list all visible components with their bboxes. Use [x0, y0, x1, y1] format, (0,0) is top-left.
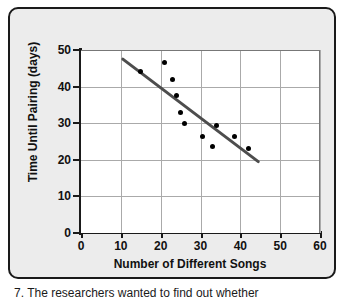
- x-tick-mark: [161, 233, 163, 238]
- x-tick-label: 40: [225, 240, 255, 252]
- data-point: [200, 134, 205, 139]
- x-axis-title: Number of Different Songs: [50, 257, 330, 271]
- data-point: [232, 134, 237, 139]
- y-tick-mark: [73, 195, 79, 197]
- y-tick-mark: [73, 122, 79, 124]
- y-tick-label: 30: [45, 117, 71, 129]
- y-tick-mark: [73, 232, 79, 234]
- x-tick-mark: [240, 233, 242, 238]
- chart-panel: 01020304050 0102030405060 Time Until Pai…: [8, 7, 336, 279]
- x-tick-label: 20: [146, 240, 176, 252]
- x-tick-mark: [201, 233, 203, 238]
- x-tick-label: 50: [265, 240, 295, 252]
- data-point: [214, 123, 219, 128]
- data-point: [182, 121, 187, 126]
- trend-line: [81, 50, 320, 233]
- scatter-plot-figure: 01020304050 0102030405060 Time Until Pai…: [0, 0, 344, 303]
- x-tick-label: 0: [66, 240, 96, 252]
- x-tick-mark: [81, 233, 83, 238]
- data-point: [170, 77, 175, 82]
- y-tick-label: 50: [45, 44, 71, 56]
- x-tick-label: 60: [305, 240, 335, 252]
- y-axis-title: Time Until Pairing (days): [26, 27, 40, 197]
- y-tick-mark: [73, 159, 79, 161]
- x-tick-label: 10: [106, 240, 136, 252]
- data-point: [178, 110, 183, 115]
- y-tick-label: 10: [45, 190, 71, 202]
- gridline-vertical: [320, 50, 321, 233]
- y-tick-label: 20: [45, 154, 71, 166]
- figure-caption: 7. The researchers wanted to find out wh…: [14, 286, 259, 300]
- y-tick-mark: [73, 49, 79, 51]
- x-tick-label: 30: [186, 240, 216, 252]
- x-tick-mark: [121, 233, 123, 238]
- y-tick-label: 40: [45, 81, 71, 93]
- plot-area: [81, 50, 320, 233]
- x-tick-mark: [280, 233, 282, 238]
- x-tick-mark: [320, 233, 322, 238]
- y-tick-label: 0: [45, 227, 71, 239]
- y-tick-mark: [73, 86, 79, 88]
